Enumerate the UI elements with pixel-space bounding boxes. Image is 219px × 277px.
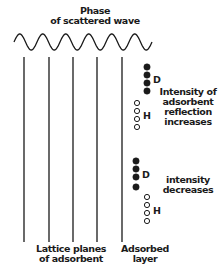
hydrogen-atom-dot [134, 100, 139, 105]
deuterium-atom-dot [133, 166, 139, 172]
hydrogen-atom-dot [134, 108, 139, 113]
wave-title-line2: of scattered wave [40, 16, 150, 26]
annotation-decreases-line: decreases [160, 185, 216, 195]
deuterium-atom-dot [144, 64, 150, 70]
h-label-bottom: H [153, 206, 161, 216]
atom-dots [133, 64, 150, 224]
adsorbed-layer-label: Adsorbed layer [120, 244, 170, 264]
hydrogen-atom-dot [134, 124, 139, 129]
wave-title: Phase of scattered wave [40, 6, 150, 26]
lattice-planes [24, 57, 97, 242]
d-label-bottom: D [142, 170, 150, 180]
deuterium-atom-dot [133, 184, 139, 190]
scattered-wave [14, 34, 152, 50]
lattice-planes-label-line2: of adsorbent [36, 254, 106, 264]
deuterium-atom-dot [144, 80, 150, 86]
annotation-decreases: intensity decreases [160, 175, 216, 195]
hydrogen-atom-dot [134, 116, 139, 121]
hydrogen-atom-dot [144, 210, 149, 215]
annotation-increases: Intensity of adsorbent reflection increa… [158, 87, 218, 127]
deuterium-atom-dot [144, 88, 150, 94]
h-label-top: H [143, 111, 151, 121]
hydrogen-atom-dot [144, 194, 149, 199]
deuterium-atom-dot [144, 72, 150, 78]
diagram-canvas [0, 0, 219, 277]
annotation-increases-line: increases [158, 117, 218, 127]
hydrogen-atom-dot [144, 202, 149, 207]
d-label-top: D [153, 75, 161, 85]
deuterium-atom-dot [133, 158, 139, 164]
lattice-planes-label: Lattice planes of adsorbent [36, 244, 106, 264]
deuterium-atom-dot [133, 174, 139, 180]
hydrogen-atom-dot [144, 218, 149, 223]
adsorbed-layer-label-line2: layer [120, 254, 170, 264]
